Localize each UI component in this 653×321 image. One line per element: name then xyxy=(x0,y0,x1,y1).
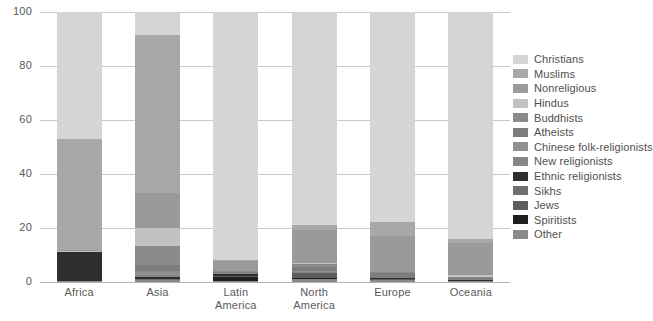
x-axis-label-africa: Africa xyxy=(40,286,118,299)
legend-item-sikhs[interactable]: Sikhs xyxy=(513,183,650,198)
bar-segment xyxy=(370,222,415,237)
legend-item-chinese-folk-religionists[interactable]: Chinese folk-religionists xyxy=(513,140,650,155)
legend-item-buddhists[interactable]: Buddhists xyxy=(513,110,650,125)
x-label-line: America xyxy=(197,299,275,312)
legend-swatch-icon xyxy=(513,186,528,195)
legend-label: Hindus xyxy=(534,97,569,109)
bar-segment xyxy=(370,12,415,221)
legend-label: New religionists xyxy=(534,155,613,167)
bar-group-oceania xyxy=(448,12,493,282)
x-axis-label-asia: Asia xyxy=(118,286,196,299)
bar-segment xyxy=(292,12,337,225)
bar-segment xyxy=(57,139,102,250)
legend-item-christians[interactable]: Christians xyxy=(513,52,650,67)
y-tick-label-80: 80 xyxy=(2,59,32,71)
legend-swatch-icon xyxy=(513,215,528,224)
x-label-line: Europe xyxy=(353,286,431,299)
legend-swatch-icon xyxy=(513,69,528,78)
y-tick-label-20: 20 xyxy=(2,221,32,233)
y-tick-label-60: 60 xyxy=(2,113,32,125)
legend-item-spiritists[interactable]: Spiritists xyxy=(513,213,650,228)
legend-item-new-religionists[interactable]: New religionists xyxy=(513,154,650,169)
bar-segment xyxy=(292,230,337,262)
bar-segment xyxy=(448,281,493,282)
x-axis-label-north-america: NorthAmerica xyxy=(275,286,353,312)
legend-item-atheists[interactable]: Atheists xyxy=(513,125,650,140)
stacked-bar xyxy=(57,12,102,282)
legend-swatch-icon xyxy=(513,84,528,93)
plot-area xyxy=(40,12,510,282)
legend-item-jews[interactable]: Jews xyxy=(513,198,650,213)
y-tick-label-100: 100 xyxy=(2,5,32,17)
x-label-line: North xyxy=(275,286,353,299)
x-label-line: America xyxy=(275,299,353,312)
legend-item-muslims[interactable]: Muslims xyxy=(513,67,650,82)
legend-swatch-icon xyxy=(513,113,528,122)
legend-label: Spiritists xyxy=(534,214,577,226)
x-label-line: Asia xyxy=(118,286,196,299)
bar-group-north-america xyxy=(292,12,337,282)
bar-segment xyxy=(448,12,493,239)
bar-segment xyxy=(135,280,180,282)
bar-segment xyxy=(57,252,102,281)
legend-label: Atheists xyxy=(534,126,574,138)
legend-label: Other xyxy=(534,228,562,240)
stacked-bar xyxy=(292,12,337,282)
bar-segment xyxy=(135,193,180,228)
bar-segment xyxy=(135,265,180,272)
y-tick-label-0: 0 xyxy=(2,275,32,287)
legend-label: Chinese folk-religionists xyxy=(534,141,653,153)
x-axis-label-europe: Europe xyxy=(353,286,431,299)
x-axis-category-labels: AfricaAsiaLatinAmericaNorthAmericaEurope… xyxy=(40,286,510,320)
bar-segment xyxy=(448,243,493,275)
legend-label: Ethnic religionists xyxy=(534,170,622,182)
bar-segment xyxy=(135,35,180,194)
bar-segment xyxy=(370,236,415,271)
legend-swatch-icon xyxy=(513,55,528,64)
bar-group-asia xyxy=(135,12,180,282)
bar-group-africa xyxy=(57,12,102,282)
stacked-bar xyxy=(135,12,180,282)
bar-segment xyxy=(57,281,102,282)
legend-swatch-icon xyxy=(513,230,528,239)
x-axis-label-latin-america: LatinAmerica xyxy=(197,286,275,312)
stacked-bar xyxy=(370,12,415,282)
legend-swatch-icon xyxy=(513,128,528,137)
legend-swatch-icon xyxy=(513,172,528,181)
legend-item-ethnic-religionists[interactable]: Ethnic religionists xyxy=(513,169,650,184)
bar-segment xyxy=(135,12,180,35)
y-tick-label-40: 40 xyxy=(2,167,32,179)
bar-segment xyxy=(57,12,102,139)
bar-segment xyxy=(213,281,258,282)
legend-item-nonreligious[interactable]: Nonreligious xyxy=(513,81,650,96)
legend-swatch-icon xyxy=(513,201,528,210)
bar-segment xyxy=(292,279,337,283)
legend-swatch-icon xyxy=(513,142,528,151)
x-label-line: Latin xyxy=(197,286,275,299)
stacked-bar xyxy=(448,12,493,282)
stacked-bar xyxy=(213,12,258,282)
legend-label: Buddhists xyxy=(534,112,583,124)
x-axis-label-oceania: Oceania xyxy=(432,286,510,299)
legend-label: Jews xyxy=(534,199,559,211)
bar-segment xyxy=(213,261,258,270)
legend-swatch-icon xyxy=(513,157,528,166)
gridline-0 xyxy=(40,282,510,283)
legend-label: Sikhs xyxy=(534,185,561,197)
bar-segment xyxy=(135,246,180,265)
legend: ChristiansMuslimsNonreligiousHindusBuddh… xyxy=(513,52,650,242)
legend-item-other[interactable]: Other xyxy=(513,227,650,242)
legend-label: Nonreligious xyxy=(534,82,596,94)
legend-swatch-icon xyxy=(513,99,528,108)
bar-segment xyxy=(135,228,180,245)
bar-segment xyxy=(213,12,258,260)
legend-label: Christians xyxy=(534,53,584,65)
bar-series-container xyxy=(40,12,510,282)
legend-item-hindus[interactable]: Hindus xyxy=(513,96,650,111)
x-label-line: Oceania xyxy=(432,286,510,299)
bar-group-latin-america xyxy=(213,12,258,282)
bar-group-europe xyxy=(370,12,415,282)
x-label-line: Africa xyxy=(40,286,118,299)
bar-segment xyxy=(370,280,415,282)
